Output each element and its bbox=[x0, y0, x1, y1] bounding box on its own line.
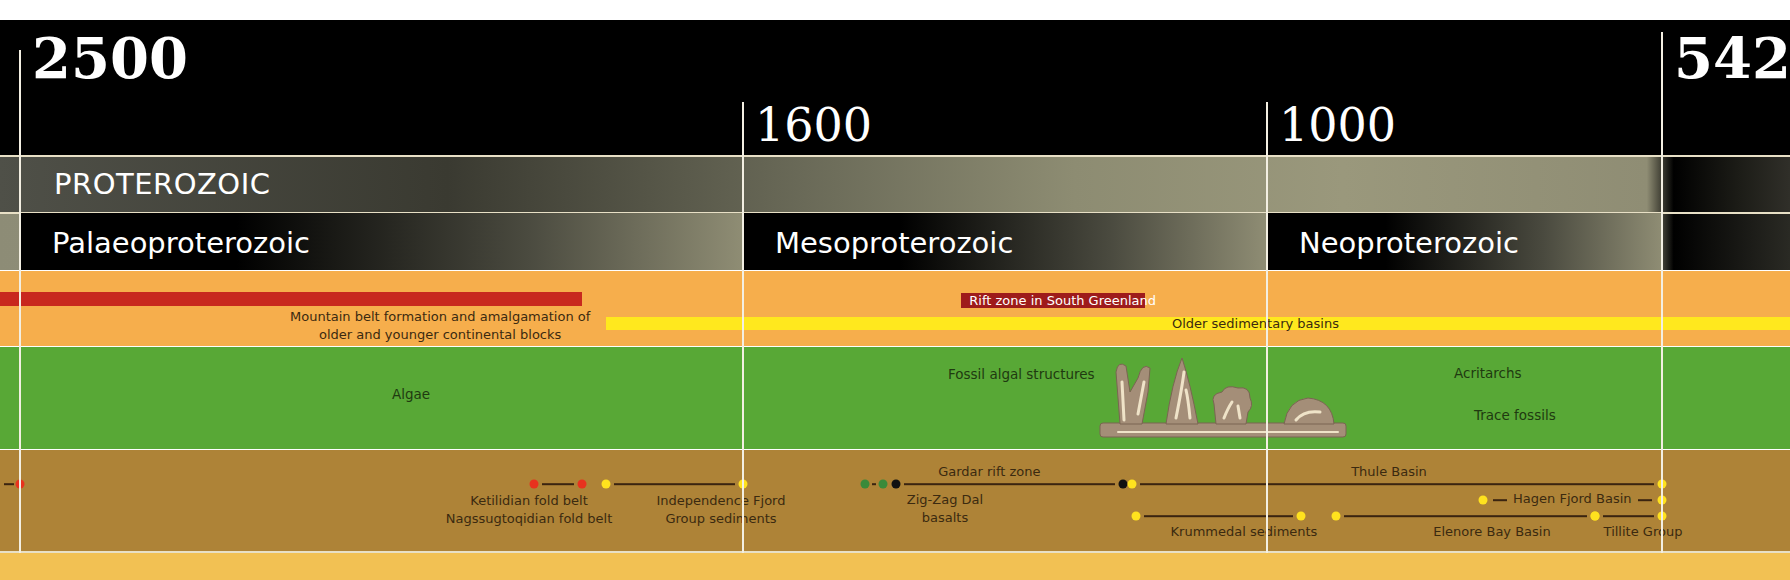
separator bbox=[0, 155, 1790, 157]
dot-elenore-bay-basin-start bbox=[1331, 512, 1340, 521]
tectonic-bar-rift-zone: Rift zone in South Greenland bbox=[961, 293, 1144, 308]
timeline-chart: 2500 1600 1000 542 PROTEROZOIC Palaeopro… bbox=[0, 0, 1790, 580]
stromatolite-column bbox=[1116, 364, 1150, 424]
geo-label-zig-zag-dal: Zig-Zag Dalbasalts bbox=[907, 491, 983, 526]
tectonics-band bbox=[0, 271, 1790, 346]
geo-label-tillite-group: Tillite Group bbox=[1604, 523, 1683, 541]
rock-base bbox=[1100, 423, 1346, 437]
life-label-fossil-algal-structures: Fossil algal structures bbox=[948, 366, 1095, 382]
era-label-neoproterozoic: Neoproterozoic bbox=[1299, 226, 1519, 260]
dot-ketilidian-fold-belt-end bbox=[578, 480, 587, 489]
geo-label-ketilidian-fold-belt: Ketilidian fold beltNagssugtoqidian fold… bbox=[446, 492, 613, 527]
separator bbox=[0, 551, 1790, 553]
dot-tillite-group-start bbox=[1590, 512, 1599, 521]
line-gardar-rift-zone bbox=[904, 483, 1115, 485]
label-line: Zig-Zag Dal bbox=[907, 491, 983, 509]
dot-zig-zag-dal-end bbox=[878, 480, 887, 489]
geo-label-elenore-bay-basin: Elenore Bay Basin bbox=[1433, 523, 1550, 541]
tick-line-2500 bbox=[19, 50, 21, 553]
line-zig-zag-dal bbox=[872, 483, 875, 485]
tick-label-542: 542 bbox=[1674, 30, 1790, 86]
life-label-algae: Algae bbox=[392, 386, 430, 402]
tick-label-2500: 2500 bbox=[32, 30, 188, 86]
line-ketilidian-fold-belt bbox=[542, 483, 574, 485]
label-line: Krummedal sediments bbox=[1171, 523, 1318, 541]
line-thule-basin bbox=[1140, 483, 1654, 485]
dot-zig-zag-dal-start bbox=[861, 480, 870, 489]
tick-line-542 bbox=[1661, 32, 1663, 553]
tick-label-1000: 1000 bbox=[1279, 102, 1396, 148]
label-line: Ketilidian fold belt bbox=[446, 492, 613, 510]
label-line: Hagen Fjord Basin bbox=[1513, 490, 1631, 508]
line-independence-fjord bbox=[614, 483, 735, 485]
label-line: Nagssugtoqidian fold belt bbox=[446, 510, 613, 528]
life-label-trace-fossils: Trace fossils bbox=[1474, 407, 1556, 423]
line-hagen-fjord-basin bbox=[1638, 499, 1652, 501]
label-line: Mountain belt formation and amalgamation… bbox=[290, 308, 590, 326]
dot-hagen-fjord-basin-start bbox=[1478, 496, 1487, 505]
geo-label-independence-fjord: Independence FjordGroup sediments bbox=[657, 492, 786, 527]
line-tillite-group bbox=[1603, 515, 1654, 517]
label-line: Independence Fjord bbox=[657, 492, 786, 510]
label-line: Elenore Bay Basin bbox=[1433, 523, 1550, 541]
label-line: Group sediments bbox=[657, 510, 786, 528]
marker-line bbox=[4, 483, 14, 485]
dot-thule-basin-start bbox=[1127, 480, 1136, 489]
tectonic-label-sedimentary-basins: Older sedimentary basins bbox=[1172, 315, 1339, 333]
line-krummedal-sediments bbox=[1144, 515, 1293, 517]
dot-krummedal-sediments-end bbox=[1297, 512, 1306, 521]
dot-krummedal-sediments-start bbox=[1132, 512, 1141, 521]
stromatolite-bush bbox=[1213, 387, 1252, 424]
tick-line-1600 bbox=[742, 102, 744, 553]
geo-label-krummedal-sediments: Krummedal sediments bbox=[1171, 523, 1318, 541]
tectonic-bar-mountain-belt bbox=[0, 292, 582, 306]
tick-label-1600: 1600 bbox=[755, 102, 872, 148]
era-label-palaeoproterozoic: Palaeoproterozoic bbox=[52, 226, 310, 260]
tick-line-1000 bbox=[1266, 102, 1268, 553]
dot-gardar-rift-zone-end bbox=[1118, 480, 1127, 489]
label-line: Tillite Group bbox=[1604, 523, 1683, 541]
geo-label-hagen-fjord-basin: Hagen Fjord Basin bbox=[1513, 490, 1631, 508]
label-line: basalts bbox=[907, 509, 983, 527]
label-line: Gardar rift zone bbox=[938, 463, 1040, 481]
eon-label: PROTEROZOIC bbox=[54, 167, 270, 201]
line-elenore-bay-basin bbox=[1344, 515, 1587, 517]
life-label-acritarchs: Acritarchs bbox=[1454, 365, 1522, 381]
dot-gardar-rift-zone-start bbox=[891, 480, 900, 489]
geo-label-gardar-rift-zone: Gardar rift zone bbox=[938, 463, 1040, 481]
dot-independence-fjord-start bbox=[602, 480, 611, 489]
line-hagen-fjord-basin bbox=[1493, 499, 1507, 501]
label-line: older and younger continental blocks bbox=[290, 326, 590, 344]
dot-ketilidian-fold-belt-start bbox=[530, 480, 539, 489]
era-label-mesoproterozoic: Mesoproterozoic bbox=[775, 226, 1013, 260]
time-axis-band bbox=[0, 20, 1790, 155]
stromatolite-illustration bbox=[1098, 352, 1348, 442]
tectonic-label-mountain-belt: Mountain belt formation and amalgamation… bbox=[290, 308, 590, 343]
geo-label-thule-basin: Thule Basin bbox=[1351, 463, 1427, 481]
bottom-band bbox=[0, 553, 1790, 580]
label-line: Thule Basin bbox=[1351, 463, 1427, 481]
life-band bbox=[0, 347, 1790, 449]
